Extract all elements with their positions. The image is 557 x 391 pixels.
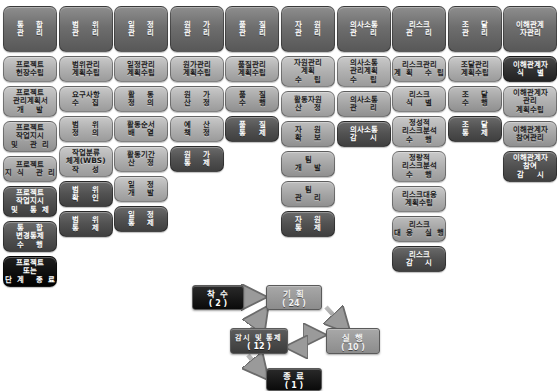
process-cell: 일 정통 제 bbox=[114, 206, 168, 232]
process-cell: 자원관리계획수 립 bbox=[281, 56, 335, 87]
process-cell-line: 수 립 bbox=[290, 76, 327, 84]
process-cell: 조 달수 행 bbox=[448, 86, 502, 112]
process-cell: 프로젝트지식 관리 bbox=[3, 156, 57, 182]
process-cell-line: 감 시 bbox=[345, 134, 382, 142]
process-cell-line: 및 통제 bbox=[6, 206, 55, 214]
process-cell-line: 관 리 bbox=[290, 194, 327, 202]
process-cell: 원 가산 정 bbox=[170, 86, 224, 112]
process-cell-line: 통 제 bbox=[179, 159, 216, 167]
flow-node-label: 기 획 bbox=[283, 287, 305, 299]
flow-node-count: ( 2 ) bbox=[209, 299, 227, 308]
process-cell-line: 작 성 bbox=[67, 166, 104, 174]
process-cell: 통 합변경통제수 행 bbox=[3, 221, 57, 252]
header-line: 관 리 bbox=[401, 29, 438, 37]
flow-node-count: ( 12 ) bbox=[247, 342, 271, 351]
process-cell: 의사소통관리계획수 립 bbox=[337, 56, 391, 87]
process-cell-line: 계획수립 bbox=[72, 69, 100, 77]
process-cell: 품 질수 행 bbox=[225, 86, 279, 112]
process-cell: 범위관리계획수립 bbox=[59, 56, 113, 82]
process-cell: 활 동정 의 bbox=[114, 86, 168, 112]
process-cell-line: 통 제 bbox=[234, 129, 271, 137]
process-cell: 의사소통관 리 bbox=[337, 91, 391, 117]
process-cell: 리스크대응계획수립 bbox=[392, 186, 446, 212]
knowledge-area-column-5: 품 질관 리품질관리계획수립품 질수 행품 질통 제 bbox=[225, 6, 279, 146]
process-cell: 이해관계자관리계획수립 bbox=[503, 86, 557, 117]
process-cell: 팀관 리 bbox=[281, 181, 335, 207]
process-cell: 프로젝트헌장수립 bbox=[3, 56, 57, 82]
process-cell-line: 통 제 bbox=[290, 224, 327, 232]
process-cell-line: 계획수립 bbox=[405, 199, 433, 207]
process-cell: 프로젝트관리계획서개 발 bbox=[3, 86, 57, 117]
process-cell-line: 개 발 bbox=[123, 189, 160, 197]
process-cell-line: 관 리 bbox=[345, 104, 382, 112]
flow-node-executing: 실 행 ( 10 ) bbox=[326, 328, 380, 354]
process-cell-line: 확 보 bbox=[290, 134, 327, 142]
knowledge-area-column-6: 자 원관 리자원관리계획수 립활동자원산 정자 원확 보팀개 발팀관 리자 원통… bbox=[281, 6, 335, 241]
knowledge-area-header: 통 합관 리 bbox=[3, 6, 57, 52]
process-cell: 일정관리계획수립 bbox=[114, 56, 168, 82]
process-cell: 리스크대응 실행 bbox=[392, 216, 446, 242]
knowledge-area-column-7: 의사소통관 리의사소통관리계획수 립의사소통관 리의사소통감 시 bbox=[337, 6, 391, 151]
process-cell-line: 산 정 bbox=[123, 159, 160, 167]
process-cell: 이해관계자참여감 시 bbox=[503, 151, 557, 182]
process-cell-line: 수 행 bbox=[12, 241, 49, 249]
header-line: 관 리 bbox=[345, 29, 382, 37]
process-cell: 정량적리스크분석수 행 bbox=[392, 151, 446, 182]
process-cell-line: 통 제 bbox=[123, 219, 160, 227]
knowledge-area-header: 범 위관 리 bbox=[59, 6, 113, 52]
flow-node-label: 착 수 bbox=[207, 287, 229, 299]
flow-node-planning: 기 획 ( 24 ) bbox=[266, 285, 322, 310]
process-cell: 자 원통 제 bbox=[281, 211, 335, 237]
process-cell-line: 정 의 bbox=[123, 99, 160, 107]
process-cell-line: 통 제 bbox=[457, 129, 494, 137]
knowledge-area-header: 이해관계자관리 bbox=[503, 6, 557, 52]
process-cell-line: 지식 관리 bbox=[3, 169, 57, 177]
flow-node-count: ( 1 ) bbox=[285, 381, 303, 390]
process-cell-line: 대응 실행 bbox=[392, 229, 446, 237]
knowledge-area-header: 조 달관 리 bbox=[448, 6, 502, 52]
flow-node-count: ( 24 ) bbox=[282, 299, 306, 308]
process-cell-line: 개 발 bbox=[12, 106, 49, 114]
flow-node-closing: 종 료 ( 1 ) bbox=[266, 368, 322, 391]
process-cell-line: 계획수립 bbox=[238, 69, 266, 77]
process-cell-line: 단계 종료 bbox=[3, 276, 57, 284]
knowledge-area-header: 원 가관 리 bbox=[170, 6, 224, 52]
process-cell-line: 헌장수립 bbox=[16, 69, 44, 77]
process-cell: 활동자원산 정 bbox=[281, 91, 335, 117]
arrow-mon-to-close bbox=[248, 355, 266, 377]
process-cell-line: 정 의 bbox=[67, 129, 104, 137]
process-cell-line: 감 시 bbox=[401, 259, 438, 267]
knowledge-area-column-10: 이해관계자관리이해관계자식 별이해관계자관리계획수립이해관계자참여관리이해관계자… bbox=[503, 6, 557, 186]
header-line: 관 리 bbox=[12, 29, 49, 37]
process-cell-line: 참여관리 bbox=[516, 134, 544, 142]
process-cell: 범 위정 의 bbox=[59, 116, 113, 142]
knowledge-area-header: 자 원관 리 bbox=[281, 6, 335, 52]
header-line: 관 리 bbox=[234, 29, 271, 37]
flow-node-label: 감시 및 통제 bbox=[235, 332, 282, 342]
process-cell-line: 계획수립 bbox=[461, 69, 489, 77]
process-cell-line: 배 열 bbox=[123, 129, 160, 137]
process-cell: 프로젝트작업지시및 관리 bbox=[3, 121, 57, 152]
flow-node-monitoring: 감시 및 통제 ( 12 ) bbox=[230, 328, 288, 354]
process-cell: 품 질통 제 bbox=[225, 116, 279, 142]
process-cell-line: 수 집 bbox=[67, 99, 104, 107]
process-cell-line: 수 립 bbox=[345, 76, 382, 84]
process-cell: 범 위통 제 bbox=[59, 211, 113, 237]
flow-node-initiating: 착 수 ( 2 ) bbox=[192, 285, 244, 310]
process-cell-line: 식 별 bbox=[512, 69, 549, 77]
process-cell: 일 정개 발 bbox=[114, 176, 168, 202]
process-cell: 활동순서배 열 bbox=[114, 116, 168, 142]
process-cell: 조 달통 제 bbox=[448, 116, 502, 142]
process-cell: 팀개 발 bbox=[281, 151, 335, 177]
process-cell-line: 책 정 bbox=[179, 129, 216, 137]
process-cell: 범 위확 인 bbox=[59, 181, 113, 207]
header-line: 관 리 bbox=[290, 29, 327, 37]
process-cell: 조달관리계획수립 bbox=[448, 56, 502, 82]
process-cell-line: 수 행 bbox=[234, 99, 271, 107]
process-cell: 리스크감 시 bbox=[392, 246, 446, 272]
header-line: 자관리 bbox=[520, 29, 541, 37]
process-cell: 의사소통감 시 bbox=[337, 121, 391, 147]
knowledge-area-column-4: 원 가관 리원가관리계획수립원 가산 정예 산책 정원 가통 제 bbox=[170, 6, 224, 176]
process-cell-line: 통 제 bbox=[67, 224, 104, 232]
knowledge-area-column-1: 통 합관 리프로젝트헌장수립프로젝트관리계획서개 발프로젝트작업지시및 관리프로… bbox=[3, 6, 57, 291]
